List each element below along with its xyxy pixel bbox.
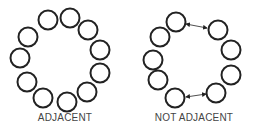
circle-node xyxy=(18,73,37,92)
double-arrow-icon xyxy=(186,24,207,28)
double-arrow-icon xyxy=(186,94,206,97)
circle-node xyxy=(144,51,163,70)
circle-node xyxy=(167,13,186,32)
circle-node xyxy=(209,21,228,40)
circle-node xyxy=(34,89,53,108)
circle-node xyxy=(222,41,241,60)
circle-node xyxy=(11,49,30,68)
circle-node xyxy=(58,93,77,112)
circle-node xyxy=(166,89,185,108)
circle-node xyxy=(79,21,98,40)
not-adjacent-label: NOT ADJACENT xyxy=(134,112,254,123)
circle-node xyxy=(78,83,97,102)
circle-node xyxy=(61,9,80,28)
adjacent-figure xyxy=(11,9,110,112)
circle-node xyxy=(91,41,110,60)
circle-node xyxy=(19,28,38,47)
not-adjacent-figure xyxy=(144,13,241,108)
circle-node xyxy=(222,66,241,85)
adjacent-label: ADJACENT xyxy=(10,112,120,123)
circle-node xyxy=(151,28,170,47)
circle-node xyxy=(39,11,58,30)
circle-node xyxy=(207,84,226,103)
circle-node xyxy=(91,64,110,83)
circle-node xyxy=(149,71,168,90)
